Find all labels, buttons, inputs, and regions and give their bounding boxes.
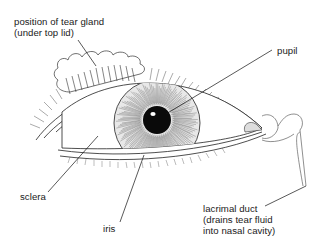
lower-eyelashes: [68, 148, 225, 168]
label-pupil: pupil: [277, 45, 298, 56]
label-sclera: sclera: [20, 191, 46, 202]
label-lacrimal-duct: lacrimal duct (drains tear fluid into na…: [203, 203, 275, 236]
leader-iris: [120, 155, 144, 222]
pupil: [143, 106, 171, 134]
pupil-highlight: [150, 112, 155, 116]
caruncle: [244, 122, 262, 132]
lacrimal-duct-shape: [262, 114, 306, 186]
label-iris: iris: [103, 223, 115, 234]
label-tear-gland: position of tear gland (under top lid): [14, 16, 104, 38]
